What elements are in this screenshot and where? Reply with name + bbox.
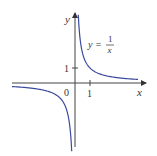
equation-denominator: x: [107, 45, 112, 55]
y-axis-label: y: [64, 13, 70, 25]
y-tick-label-1: 1: [64, 63, 69, 74]
x-tick-label-1: 1: [87, 88, 92, 99]
equation-lhs: y =: [87, 39, 102, 50]
graph-of-reciprocal-function: y x 0 1 1 y = 1 x: [0, 0, 157, 156]
origin-label: 0: [64, 87, 69, 98]
equation-label: y = 1 x: [87, 34, 114, 55]
curve-negative-branch: [12, 87, 72, 152]
equation-numerator: 1: [108, 34, 113, 44]
x-axis-label: x: [136, 86, 142, 98]
